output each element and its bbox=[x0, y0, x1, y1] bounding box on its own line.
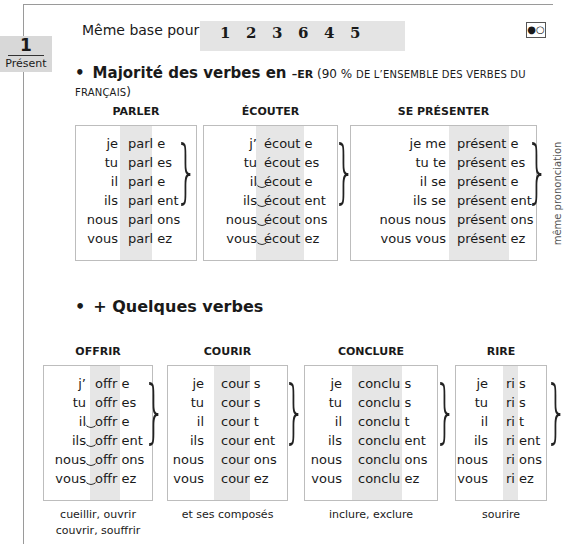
verb-form: écout e bbox=[264, 172, 313, 191]
pronoun: nous bbox=[226, 210, 257, 229]
stem: ri bbox=[506, 471, 515, 486]
caption-line: couvrir, souffrir bbox=[28, 523, 168, 539]
stem: ri bbox=[506, 376, 515, 391]
verb-form: cour s bbox=[221, 393, 261, 412]
verb-heading: SE PRÉSENTER bbox=[350, 105, 537, 118]
pronoun: j’ bbox=[249, 134, 257, 153]
ending: e bbox=[121, 376, 129, 391]
verb-heading: CONCLURE bbox=[304, 345, 438, 358]
verb-form: offr ent bbox=[95, 431, 143, 450]
verb-form: parl es bbox=[128, 153, 172, 172]
bullet: • bbox=[75, 297, 85, 316]
pronoun: je me bbox=[410, 134, 446, 153]
ending: es bbox=[157, 155, 172, 170]
stem: présent bbox=[457, 193, 506, 208]
stem: cour bbox=[221, 376, 250, 391]
pronoun: il se bbox=[420, 172, 446, 191]
divider bbox=[8, 55, 44, 56]
ending: s bbox=[404, 376, 411, 391]
conjugation-table: jeparl etuparl esilparl eilsparl entnous… bbox=[75, 125, 197, 261]
brace-icon: } bbox=[545, 376, 565, 446]
ending: e bbox=[157, 174, 165, 189]
side-note-text: même prononciation bbox=[552, 114, 563, 274]
top-rule bbox=[23, 4, 553, 5]
stem: conclu bbox=[358, 433, 400, 448]
pronoun: je bbox=[330, 374, 342, 393]
pronoun: tu bbox=[73, 393, 86, 412]
ending: ez bbox=[519, 471, 534, 486]
heading-text: Majorité des verbes en bbox=[93, 64, 292, 82]
base-number: 5 bbox=[350, 24, 376, 42]
pronoun: je bbox=[476, 374, 488, 393]
ending: es bbox=[511, 155, 526, 170]
verb-form: cour ons bbox=[221, 450, 277, 469]
ending: ons bbox=[519, 452, 542, 467]
pronoun: ils bbox=[104, 191, 118, 210]
ending: s bbox=[254, 376, 261, 391]
pronoun: vous bbox=[173, 469, 204, 488]
stem: parl bbox=[128, 155, 153, 170]
ending: t bbox=[519, 414, 524, 429]
ending: ent bbox=[254, 433, 275, 448]
ending: e bbox=[157, 136, 165, 151]
pronoun: tu te bbox=[415, 153, 446, 172]
pronoun: tu bbox=[244, 153, 257, 172]
stem: conclu bbox=[358, 471, 400, 486]
verb-form: présent ez bbox=[457, 229, 525, 248]
conjugation-table: je meprésent etu teprésent esil seprésen… bbox=[350, 125, 537, 261]
verb-form: écout e bbox=[264, 134, 313, 153]
stem: écout bbox=[264, 155, 300, 170]
ending: ent bbox=[121, 433, 142, 448]
verb-form: conclu ons bbox=[358, 450, 427, 469]
verb-form: écout es bbox=[264, 153, 319, 172]
verb-form: offr e bbox=[95, 412, 129, 431]
ending: ent bbox=[404, 433, 425, 448]
verb-form: ri s bbox=[506, 374, 526, 393]
ending: ons bbox=[305, 212, 328, 227]
half-filled-circles-icon[interactable]: ●○ bbox=[526, 22, 546, 38]
verb-form: offr ons bbox=[95, 450, 144, 469]
ending: ons bbox=[157, 212, 180, 227]
pronoun: ils bbox=[190, 431, 204, 450]
pronoun: il bbox=[335, 412, 342, 431]
ending: e bbox=[305, 174, 313, 189]
stem: écout bbox=[264, 231, 300, 246]
verb-form: écout ons bbox=[264, 210, 328, 229]
pronoun: il bbox=[111, 172, 118, 191]
ending: ez bbox=[157, 231, 172, 246]
section-heading-er: •Majorité des verbes en –ER (90 % DE L’E… bbox=[75, 64, 565, 100]
ending: e bbox=[305, 136, 313, 151]
ending: ons bbox=[511, 212, 534, 227]
stem: parl bbox=[128, 136, 153, 151]
pronoun: il bbox=[481, 412, 488, 431]
stem: présent bbox=[457, 136, 506, 151]
verb-heading: PARLER bbox=[75, 105, 197, 118]
verb-form: cour t bbox=[221, 412, 259, 431]
pronoun: vous bbox=[55, 469, 86, 488]
verb-form: conclu t bbox=[358, 412, 410, 431]
stem: cour bbox=[221, 471, 250, 486]
verb-heading: OFFRIR bbox=[43, 345, 153, 358]
pronoun: tu bbox=[191, 393, 204, 412]
pronoun: ils bbox=[328, 431, 342, 450]
stem: cour bbox=[221, 433, 250, 448]
stem: écout bbox=[264, 212, 300, 227]
ending: t bbox=[254, 414, 259, 429]
stem: conclu bbox=[358, 376, 400, 391]
verb-heading: ÉCOUTER bbox=[203, 105, 338, 118]
caption-line: sourire bbox=[440, 507, 562, 523]
verb-form: écout ez bbox=[264, 229, 319, 248]
pronoun: nous bbox=[311, 450, 342, 469]
stem: offr bbox=[95, 414, 117, 429]
pronoun: j’ bbox=[78, 374, 86, 393]
stem: offr bbox=[95, 376, 117, 391]
stem: offr bbox=[95, 395, 117, 410]
verb-form: présent ent bbox=[457, 191, 532, 210]
conjugation-table: jeri sturi silri tilsri entnousri onsvou… bbox=[455, 365, 547, 501]
pronoun: nous bbox=[173, 450, 204, 469]
stem: ri bbox=[506, 414, 515, 429]
pronoun: nous bbox=[55, 450, 86, 469]
ending: es bbox=[305, 155, 320, 170]
pronoun: ils bbox=[474, 431, 488, 450]
stem: offr bbox=[95, 433, 117, 448]
